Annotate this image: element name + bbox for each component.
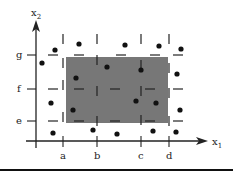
point — [39, 60, 44, 65]
point — [122, 42, 127, 47]
shaded-rectangle — [66, 57, 168, 123]
x-tick-label-c: c — [138, 150, 144, 161]
point — [138, 67, 143, 72]
point — [76, 41, 81, 46]
y-ticks — [27, 55, 36, 121]
point — [104, 64, 109, 69]
rectangle-region-diagram: x2 x1 g f e a b c d — [0, 0, 233, 174]
x-tick-label-d: d — [166, 150, 173, 161]
point — [48, 100, 53, 105]
point — [174, 71, 179, 76]
y-axis-label: x2 — [31, 7, 41, 21]
y-tick-label-f: f — [17, 83, 22, 94]
point — [150, 128, 155, 133]
x-tick-label-a: a — [60, 150, 66, 161]
point — [90, 127, 95, 132]
y-tick-label-g: g — [16, 49, 23, 60]
x-tick-label-b: b — [94, 150, 100, 161]
point — [173, 129, 178, 134]
point — [114, 131, 119, 136]
point — [177, 107, 182, 112]
point — [52, 47, 57, 52]
point — [133, 98, 138, 103]
point — [153, 100, 158, 105]
point — [73, 75, 78, 80]
point — [50, 130, 55, 135]
point — [70, 107, 75, 112]
point — [178, 46, 183, 51]
point — [156, 43, 161, 48]
y-tick-label-e: e — [16, 115, 22, 126]
x-axis-label: x1 — [212, 136, 222, 150]
